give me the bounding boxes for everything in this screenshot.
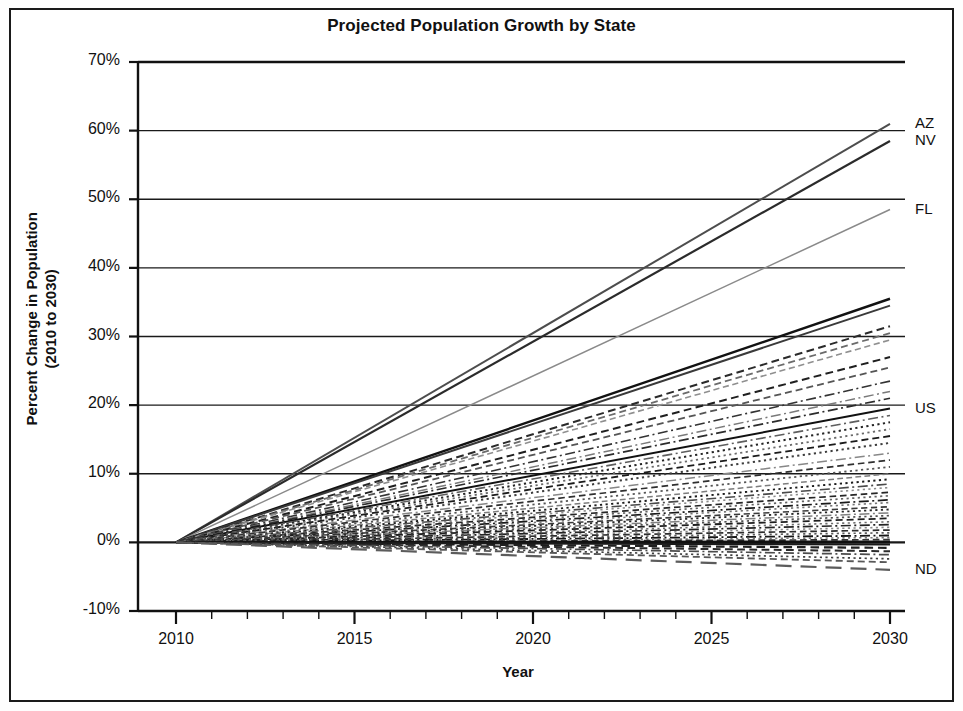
- x-tick-label-2030: 2030: [850, 630, 930, 648]
- series-line-sc: [176, 367, 890, 542]
- series-label-nv: NV: [915, 131, 936, 148]
- gridlines-group: [138, 62, 905, 542]
- x-tick-label-2010: 2010: [136, 630, 216, 648]
- y-tick-label-50: 50%: [50, 188, 120, 206]
- x-tick-label-2020: 2020: [493, 630, 573, 648]
- y-tick-label--10: -10%: [50, 600, 120, 618]
- series-line-tn: [176, 436, 890, 542]
- y-tick-label-30: 30%: [50, 326, 120, 344]
- plot-area: [0, 0, 963, 711]
- y-tick-label-70: 70%: [50, 51, 120, 69]
- series-label-az: AZ: [915, 114, 934, 131]
- y-tick-label-20: 20%: [50, 394, 120, 412]
- y-tick-label-60: 60%: [50, 120, 120, 138]
- x-tick-label-2015: 2015: [315, 630, 395, 648]
- series-label-nd: ND: [915, 560, 937, 577]
- x-tick-label-2025: 2025: [672, 630, 752, 648]
- series-line-md: [176, 429, 890, 542]
- chart-figure: Projected Population Growth by State Per…: [0, 0, 963, 711]
- series-label-fl: FL: [915, 200, 933, 217]
- series-line-co: [176, 357, 890, 542]
- series-line-ga: [176, 333, 890, 542]
- series-group: [176, 124, 890, 570]
- y-tick-label-40: 40%: [50, 257, 120, 275]
- y-tick-label-10: 10%: [50, 463, 120, 481]
- series-label-us: US: [915, 399, 936, 416]
- y-tick-label-0: 0%: [50, 531, 120, 549]
